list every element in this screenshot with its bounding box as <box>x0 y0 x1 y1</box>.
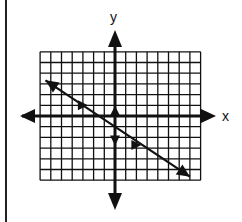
y-axis-label: y <box>110 10 117 24</box>
x-axis-label: x <box>222 109 229 123</box>
coordinate-plane <box>0 0 242 222</box>
axes <box>20 30 216 210</box>
